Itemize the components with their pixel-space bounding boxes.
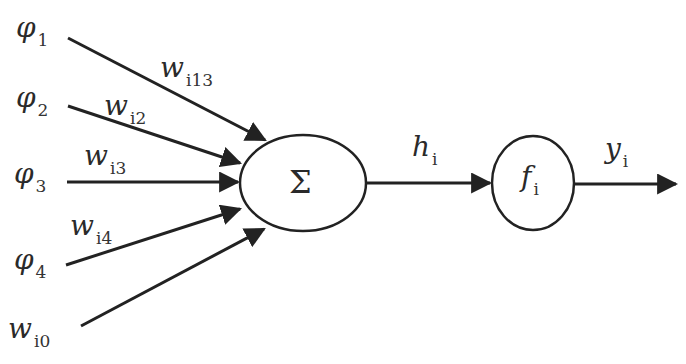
input-label-phi3: φ3 bbox=[14, 160, 46, 188]
weight-label-w-i4: wi4 bbox=[70, 212, 112, 240]
sigma-symbol: Σ bbox=[289, 166, 312, 198]
final-output-label-y: yi bbox=[605, 135, 628, 163]
intermediate-output-label-h: hi bbox=[412, 133, 437, 161]
neuron-diagram: φ1 φ2 φ3 φ4 wi0 wi13 wi2 wi3 wi4 Σ fi hi… bbox=[0, 0, 686, 364]
activation-function-label: fi bbox=[521, 163, 539, 191]
diagram-canvas bbox=[0, 0, 686, 364]
input-label-phi4: φ4 bbox=[14, 246, 46, 274]
input-label-phi1: φ1 bbox=[16, 14, 48, 42]
weight-label-w-i2: wi2 bbox=[104, 92, 146, 120]
bias-weight-label: wi0 bbox=[8, 315, 50, 343]
weight-label-w-i13: wi13 bbox=[160, 54, 213, 82]
weight-label-w-i3: wi3 bbox=[84, 142, 126, 170]
input-label-phi2: φ2 bbox=[16, 84, 48, 112]
